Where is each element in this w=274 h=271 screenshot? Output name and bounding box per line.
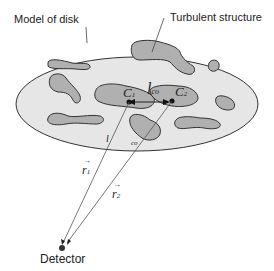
l-small-label: l bbox=[106, 133, 109, 144]
c1-label: C1 bbox=[123, 85, 135, 101]
c2-label: C2 bbox=[175, 84, 187, 100]
disk-diagram bbox=[0, 0, 274, 271]
r2-arrowhead bbox=[67, 239, 71, 245]
r1-label: → r1 bbox=[82, 163, 90, 178]
detector-point bbox=[59, 245, 65, 251]
correlation-length-label: lco bbox=[147, 80, 159, 98]
co-small-label: co bbox=[131, 139, 138, 147]
turbulent-structure-label: Turbulent structure bbox=[170, 11, 262, 23]
detector-label: Detector bbox=[40, 252, 85, 266]
model-of-disk-label: Model of disk bbox=[14, 13, 79, 25]
r2-label: → r2 bbox=[112, 187, 120, 202]
model-of-disk-leader bbox=[86, 27, 87, 43]
